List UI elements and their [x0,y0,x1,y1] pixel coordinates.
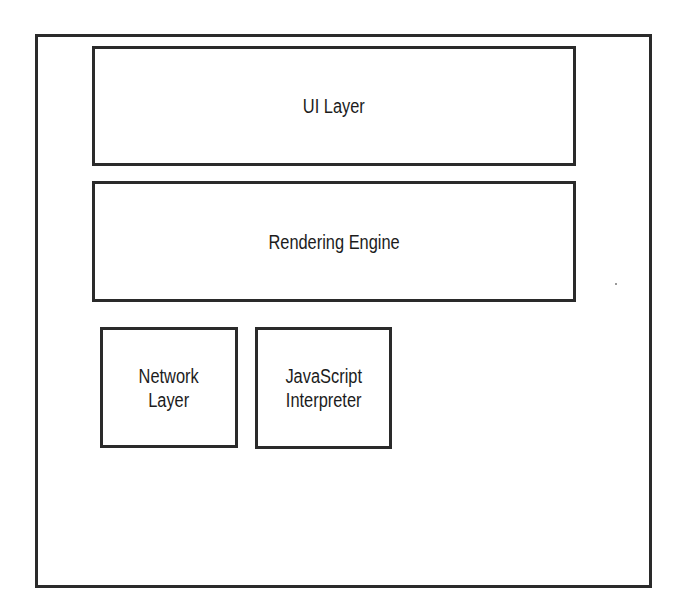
javascript-interpreter-box: JavaScript Interpreter [255,327,392,449]
network-layer-box: Network Layer [100,327,238,448]
javascript-interpreter-label: JavaScript Interpreter [285,364,362,412]
stray-mark [615,283,617,285]
ui-layer-box: UI Layer [92,46,576,166]
rendering-engine-label: Rendering Engine [268,230,399,254]
ui-layer-label: UI Layer [303,94,365,118]
rendering-engine-box: Rendering Engine [92,181,576,302]
network-layer-label: Network Layer [139,364,199,412]
